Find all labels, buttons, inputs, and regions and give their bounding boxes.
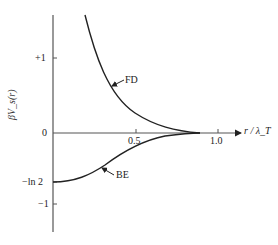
fd-label: FD: [125, 74, 138, 85]
y-tick-ln2: −ln 2: [22, 176, 43, 187]
x-tick-10: 1.0: [210, 135, 223, 146]
be-label: BE: [116, 169, 129, 180]
y-tick-plus1: +1: [35, 52, 46, 63]
y-tick-minus1: −1: [38, 198, 49, 209]
x-axis-label: r / λ_T: [244, 125, 271, 136]
x-tick-05: 0.5: [128, 135, 141, 146]
y-axis-label: βV_s(r): [6, 89, 17, 120]
fd-curve: [85, 15, 200, 133]
y-tick-zero: 0: [42, 127, 47, 138]
